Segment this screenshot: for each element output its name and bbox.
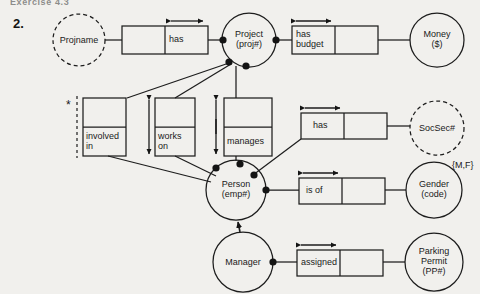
line-project-workson: [175, 64, 231, 98]
subtype-arrow-manager-person: [238, 222, 240, 232]
line-involvedin-person: [108, 156, 211, 182]
dot-project-lower-left: [225, 58, 232, 65]
dot-project-lower-right: [242, 62, 249, 69]
dot-person-upper-left: [212, 164, 219, 171]
dot-manager-right: [269, 258, 276, 265]
line-workson-person: [175, 156, 216, 176]
fact-box-has-proj[interactable]: [122, 26, 208, 54]
fact-box-assigned[interactable]: [297, 250, 383, 276]
line-person-hassocsec: [253, 139, 301, 175]
fact-box-has-socsec[interactable]: [301, 113, 387, 139]
entity-parkingpermit-circle[interactable]: [405, 233, 463, 291]
fact-box-is-of[interactable]: [299, 178, 385, 204]
fact-box-works-on[interactable]: [155, 98, 195, 156]
dot-person-right-upper: [250, 171, 257, 178]
dot-person-upper-right: [236, 160, 243, 167]
er-diagram-page: Exercise 4.3 2.: [0, 0, 480, 294]
dot-project-right: [272, 36, 279, 43]
diagram-canvas: [0, 0, 480, 294]
entity-manager-circle[interactable]: [213, 232, 273, 292]
fact-box-has-budget[interactable]: [292, 26, 378, 54]
line-project-involvedin: [127, 63, 229, 98]
entity-gender-circle[interactable]: [406, 162, 462, 218]
fact-box-manages[interactable]: [224, 98, 272, 156]
entity-socsec-circle[interactable]: [410, 101, 464, 155]
connector-lines: [105, 40, 410, 262]
dot-project-left: [219, 36, 226, 43]
role-dots: [212, 36, 279, 265]
fact-box-involved-in[interactable]: [83, 98, 126, 156]
entity-projname-circle[interactable]: [53, 14, 105, 66]
dot-person-right: [262, 186, 269, 193]
entity-money-circle[interactable]: [410, 13, 464, 67]
